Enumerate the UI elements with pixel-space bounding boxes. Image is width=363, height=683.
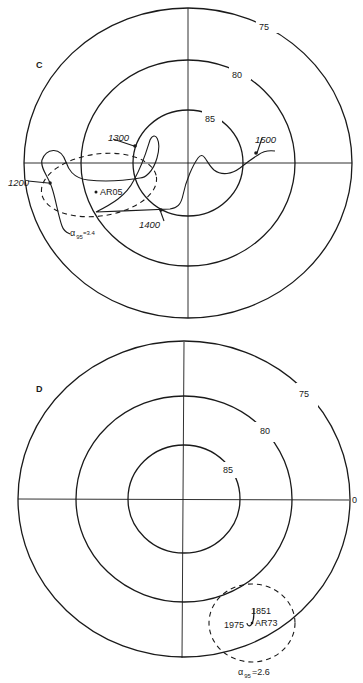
panel-c-site-label: AR05 [100,187,123,197]
figure-canvas: 75 80 85 C 1200 1300 1400 1500 AR05 α95=… [0,0,363,683]
panel-d-alpha95-label: α95=2.6 [238,667,270,679]
panel-c-ring-label-75: 75 [259,22,269,32]
panel-c-marker-1300 [133,144,137,148]
panel-c-alpha95-label: α95=3.4 [70,228,95,240]
panel-d-ring-label-85: 85 [223,465,233,475]
panel-c-marker-1400 [159,208,163,212]
panel-d-ring-label-75: 75 [299,389,309,399]
panel-c-date-1200: 1200 [8,177,30,188]
panel-d-site-marker [251,622,254,625]
panel-c-marker-1500 [254,151,258,155]
panel-c-date-1300: 1300 [108,132,130,143]
panel-d: 75 80 85 0 D 1851 1975 AR73 α95=2.6 [18,341,357,679]
panel-d-date-1975: 1975 [224,620,244,630]
panel-c-label: C [36,60,43,70]
panel-d-longitude-label: 0 [352,495,357,505]
panel-c-tick-1200 [28,181,48,183]
panel-c-marker-1200 [48,181,52,185]
panel-d-vertical-axis [182,342,184,658]
panel-c-ring-label-80: 80 [232,70,242,80]
panel-d-site-label: AR73 [255,618,278,628]
panel-c-date-1500: 1500 [255,134,277,145]
panel-c-ring-label-85: 85 [205,114,215,124]
panel-c-site-marker [95,191,98,194]
panel-d-horizontal-axis [18,499,349,500]
panel-d-ring-label-80: 80 [260,426,270,436]
panel-d-date-1851: 1851 [251,606,271,616]
panel-d-label: D [36,384,43,394]
panel-c-date-1400: 1400 [139,219,161,230]
panel-c: 75 80 85 C 1200 1300 1400 1500 AR05 α95=… [8,8,352,318]
